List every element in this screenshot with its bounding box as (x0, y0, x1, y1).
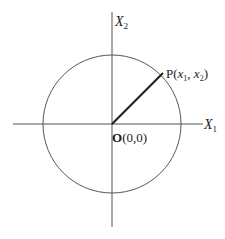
radius-segment-op (112, 73, 163, 124)
x2-axis-label: X2 (114, 14, 128, 31)
unit-circle-diagram: X2 X1 O(0,0) P(x1, x2) (0, 0, 225, 239)
origin-label: O(0,0) (112, 130, 147, 145)
point-p-label: P(x1, x2) (166, 66, 208, 83)
x1-axis-label: X1 (203, 117, 217, 134)
